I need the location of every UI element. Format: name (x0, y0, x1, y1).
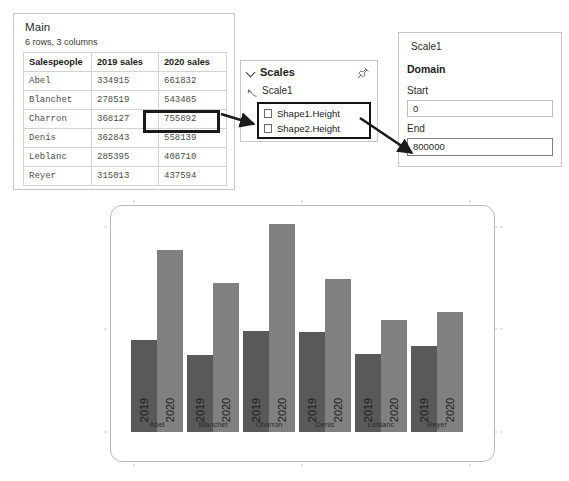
x-axis-label-charron: Charron (255, 420, 282, 429)
bar-series-label: 2019 (250, 398, 262, 422)
bar-series-label: 2019 (362, 398, 374, 422)
bar-series-label: 2020 (444, 398, 456, 422)
bar-2020-blanchet[interactable]: 2020 (213, 283, 239, 432)
bar-2019-abel[interactable]: 2019 (131, 340, 157, 432)
bar-chart: 2019 2020 2019 2020 2019 2020 2019 2020 … (131, 212, 471, 432)
x-axis-label-leblanc: Leblanc (368, 420, 394, 429)
bar-2020-abel[interactable]: 2020 (157, 250, 183, 432)
bar-series-label: 2019 (306, 398, 318, 422)
bar-2020-denis[interactable]: 2020 (325, 279, 351, 432)
bar-2020-reyer[interactable]: 2020 (437, 312, 463, 432)
bar-series-label: 2019 (194, 398, 206, 422)
bar-2020-leblanc[interactable]: 2020 (381, 320, 407, 432)
bar-2019-charron[interactable]: 2019 (243, 331, 269, 432)
bar-2019-denis[interactable]: 2019 (299, 332, 325, 432)
x-axis-label-denis: Denis (315, 420, 334, 429)
bar-2020-charron[interactable]: 2020 (269, 224, 295, 432)
bar-series-label: 2019 (418, 398, 430, 422)
bar-series-label: 2020 (164, 398, 176, 422)
bar-series-label: 2019 (138, 398, 150, 422)
bar-series-label: 2020 (220, 398, 232, 422)
bar-series-label: 2020 (276, 398, 288, 422)
x-axis-label-blanchet: Blanchet (198, 420, 227, 429)
x-axis-label-abel: Abel (149, 420, 164, 429)
x-axis-label-reyer: Reyer (427, 420, 447, 429)
bar-series-label: 2020 (332, 398, 344, 422)
bar-series-label: 2020 (388, 398, 400, 422)
